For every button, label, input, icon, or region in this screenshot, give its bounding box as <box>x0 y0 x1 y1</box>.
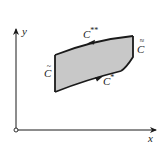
label-c-double-tilde-accent: ≈ <box>137 37 147 45</box>
label-c-double-tilde: ≈ C <box>137 44 147 58</box>
region-diagram <box>0 0 165 146</box>
label-c-tilde: ~ C <box>44 68 54 82</box>
y-axis-label: y <box>22 26 27 37</box>
label-c-double-star: C** <box>83 27 98 40</box>
origin-marker <box>14 128 18 132</box>
label-c-tilde-accent: ~ <box>44 63 54 71</box>
label-c-star: C* <box>103 74 114 87</box>
label-c-double-star-sup: ** <box>90 26 98 35</box>
label-c-star-sup: * <box>110 73 114 82</box>
x-axis-label: x <box>148 133 153 144</box>
